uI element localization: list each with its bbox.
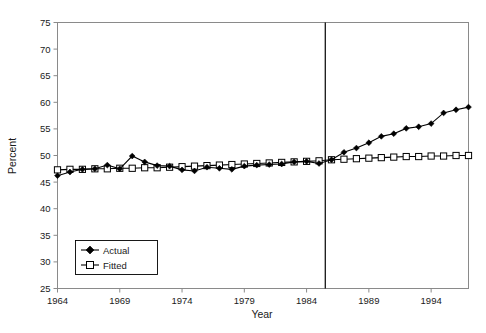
data-point-actual bbox=[354, 145, 360, 151]
chart-figure: 2530354045505560657075 19641969197419791… bbox=[0, 0, 486, 333]
chart-canvas: 2530354045505560657075 19641969197419791… bbox=[0, 0, 486, 333]
x-axis-title: Year bbox=[251, 308, 273, 320]
x-tick-label: 1964 bbox=[47, 295, 68, 306]
data-point-actual bbox=[403, 125, 409, 131]
x-axis-tick-labels: 1964196919741979198419891994 bbox=[47, 295, 442, 306]
y-tick-label: 75 bbox=[40, 17, 51, 28]
legend-marker-square-icon bbox=[87, 262, 94, 269]
data-point-fitted bbox=[353, 156, 359, 162]
legend: Actual Fitted bbox=[76, 241, 158, 275]
legend-label-actual: Actual bbox=[103, 245, 129, 256]
data-point-fitted bbox=[366, 155, 372, 161]
data-point-fitted bbox=[453, 152, 459, 158]
data-point-fitted bbox=[341, 156, 347, 162]
x-tick-label: 1979 bbox=[234, 295, 255, 306]
data-point-actual bbox=[366, 140, 372, 146]
data-point-fitted bbox=[403, 153, 409, 159]
series-actual bbox=[55, 104, 472, 178]
x-tick-label: 1974 bbox=[171, 295, 192, 306]
data-point-actual bbox=[142, 159, 148, 165]
y-tick-label: 65 bbox=[40, 70, 51, 81]
y-tick-label: 70 bbox=[40, 44, 51, 55]
data-point-fitted bbox=[378, 155, 384, 161]
y-tick-label: 45 bbox=[40, 177, 51, 188]
data-point-fitted bbox=[129, 165, 135, 171]
data-point-actual bbox=[416, 124, 422, 130]
x-tick-label: 1984 bbox=[296, 295, 317, 306]
y-axis-tick-labels: 2530354045505560657075 bbox=[40, 17, 51, 294]
data-point-actual bbox=[378, 133, 384, 139]
x-tick-label: 1994 bbox=[421, 295, 442, 306]
x-tick-label: 1969 bbox=[109, 295, 130, 306]
legend-label-fitted: Fitted bbox=[103, 260, 127, 271]
y-axis-title: Percent bbox=[6, 138, 18, 174]
data-point-actual bbox=[466, 104, 472, 110]
y-tick-label: 55 bbox=[40, 123, 51, 134]
data-point-actual bbox=[391, 131, 397, 137]
y-tick-label: 60 bbox=[40, 97, 51, 108]
data-point-fitted bbox=[416, 153, 422, 159]
data-point-fitted bbox=[142, 165, 148, 171]
data-point-fitted bbox=[428, 153, 434, 159]
data-point-actual bbox=[341, 149, 347, 155]
data-point-fitted bbox=[440, 153, 446, 159]
data-point-actual bbox=[453, 107, 459, 113]
series-fitted bbox=[54, 152, 471, 173]
data-point-fitted bbox=[391, 154, 397, 160]
x-axis-ticks bbox=[58, 289, 432, 293]
y-tick-label: 50 bbox=[40, 150, 51, 161]
y-tick-label: 40 bbox=[40, 203, 51, 214]
y-tick-label: 25 bbox=[40, 283, 51, 294]
y-tick-label: 35 bbox=[40, 230, 51, 241]
data-point-fitted bbox=[465, 152, 471, 158]
legend-entry-fitted: Fitted bbox=[81, 260, 127, 271]
data-point-fitted bbox=[54, 167, 60, 173]
data-point-actual bbox=[55, 173, 61, 179]
x-tick-label: 1989 bbox=[358, 295, 379, 306]
y-axis-ticks bbox=[54, 23, 58, 289]
y-tick-label: 30 bbox=[40, 256, 51, 267]
